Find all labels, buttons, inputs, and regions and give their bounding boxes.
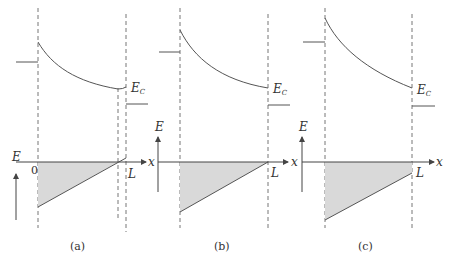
panel-c: EC E x L (c) [298, 8, 443, 253]
caption-a: (a) [70, 240, 85, 253]
e-axis-label: E [11, 150, 21, 164]
length-label: L [415, 166, 424, 180]
conduction-band-curve [38, 42, 126, 89]
e-axis-label: E [298, 120, 308, 134]
x-axis-label: x [148, 155, 155, 169]
length-label: L [127, 167, 136, 181]
band-diagram-figure: EC E x 0 L (a) EC E x L (b) EC [0, 0, 453, 265]
ec-label: EC [130, 81, 146, 96]
origin-label: 0 [31, 164, 38, 177]
panel-a: EC E x 0 L (a) [11, 8, 155, 253]
e-axis-label: E [154, 120, 164, 134]
length-label: L [270, 166, 279, 180]
panel-b: EC E x L (b) [154, 8, 298, 253]
conduction-band-curve [180, 30, 268, 88]
ec-label: EC [272, 82, 288, 97]
field-area-fill [325, 162, 412, 220]
x-axis-label: x [436, 155, 443, 169]
x-axis-label: x [291, 155, 298, 169]
caption-c: (c) [358, 240, 373, 253]
ec-label: EC [416, 83, 432, 98]
conduction-band-curve [325, 18, 412, 88]
caption-b: (b) [214, 240, 230, 253]
